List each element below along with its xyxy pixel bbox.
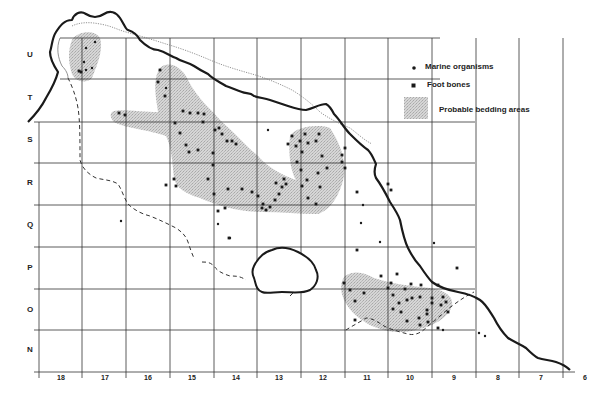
foot-bone-point: [295, 145, 298, 148]
foot-bone-point: [261, 207, 264, 210]
foot-bone-point: [265, 209, 268, 212]
lake-outline: [253, 248, 318, 293]
row-label-s: S: [25, 135, 35, 144]
bedding-area-o10: [341, 272, 452, 332]
foot-bone-point: [356, 191, 359, 194]
foot-bone-point: [426, 309, 429, 312]
marine-organism-point: [484, 335, 486, 337]
foot-bone-point: [203, 113, 206, 116]
column-label-7: 7: [531, 374, 551, 381]
map-canvas: [0, 0, 613, 400]
marine-organism-point: [478, 332, 480, 334]
foot-bone-point: [197, 112, 200, 115]
foot-bone-point: [396, 273, 399, 276]
foot-bone-point: [317, 172, 320, 175]
foot-bone-point: [287, 143, 290, 146]
foot-bone-point: [406, 320, 409, 323]
marine-organism-point: [360, 222, 362, 224]
foot-bone-point: [164, 95, 167, 98]
foot-bone-point: [440, 304, 443, 307]
foot-bone-point: [344, 147, 347, 150]
foot-bone-point: [241, 188, 244, 191]
foot-bone-point: [410, 283, 413, 286]
foot-bone-point: [349, 289, 352, 292]
marine-organism-point: [267, 129, 269, 131]
foot-bone-point: [226, 140, 229, 143]
foot-bone-point: [304, 133, 307, 136]
row-label-r: R: [25, 178, 35, 187]
foot-bone-point: [174, 122, 177, 125]
foot-bone-point: [418, 317, 421, 320]
foot-bone-point: [398, 302, 401, 305]
foot-bone-point: [118, 112, 121, 115]
foot-bone-point: [274, 199, 277, 202]
foot-bone-point: [354, 300, 357, 303]
foot-bone-point: [363, 292, 366, 295]
foot-bone-point: [445, 301, 448, 304]
marine-organism-point: [91, 67, 93, 69]
foot-bone-point: [278, 193, 281, 196]
foot-bone-point: [231, 140, 234, 143]
marine-organism-point: [362, 204, 364, 206]
column-label-18: 18: [51, 374, 71, 381]
foot-bone-point: [456, 267, 459, 270]
foot-bone-point: [197, 149, 200, 152]
foot-bone-point: [437, 327, 440, 330]
row-label-q: Q: [25, 220, 35, 229]
foot-bone-square-icon: [410, 82, 418, 90]
foot-bone-point: [235, 143, 238, 146]
foot-bone-point: [306, 179, 309, 182]
marine-organism-point: [217, 223, 219, 225]
bedding-area-swatch-icon: [404, 97, 428, 119]
foot-bone-point: [301, 185, 304, 188]
foot-bone-point: [387, 287, 390, 290]
foot-bone-point: [165, 184, 168, 187]
foot-bone-point: [344, 167, 347, 170]
column-label-13: 13: [269, 374, 289, 381]
foot-bone-point: [224, 207, 227, 210]
foot-bone-point: [218, 127, 221, 130]
row-label-p: P: [25, 263, 35, 272]
foot-bone-point: [390, 282, 393, 285]
foot-bone-point: [307, 197, 310, 200]
marine-organism-point: [94, 41, 96, 43]
foot-bone-point: [212, 152, 215, 155]
foot-bone-point: [179, 132, 182, 135]
foot-bone-point: [296, 161, 299, 164]
foot-bone-point: [221, 133, 224, 136]
foot-bone-point: [307, 142, 310, 145]
foot-bone-point: [251, 191, 254, 194]
legend-label-bedding-areas: Probable bedding areas: [439, 105, 530, 114]
foot-bone-point: [281, 186, 284, 189]
foot-bone-point: [419, 296, 422, 299]
foot-bone-point: [124, 114, 127, 117]
marine-organism-point: [85, 69, 87, 71]
foot-bone-point: [214, 129, 217, 132]
foot-bone-point: [227, 188, 230, 191]
marine-organism-point: [379, 241, 381, 243]
foot-bone-point: [420, 284, 423, 287]
foot-bone-point: [419, 324, 422, 327]
inner-boundary-line: [58, 38, 68, 78]
foot-bone-point: [341, 161, 344, 164]
foot-bone-point: [406, 299, 409, 302]
foot-bone-point: [387, 183, 390, 186]
marine-organism-dot-icon: [410, 64, 418, 72]
foot-bone-point: [343, 282, 346, 285]
foot-bone-point: [189, 112, 192, 115]
foot-bone-point: [157, 81, 160, 84]
foot-bone-point: [404, 288, 407, 291]
foot-bone-point: [354, 319, 357, 322]
row-label-n: N: [25, 345, 35, 354]
foot-bone-point: [318, 133, 321, 136]
foot-bone-point: [392, 308, 395, 311]
legend-label-marine-organisms: Marine organisms: [425, 62, 493, 71]
foot-bone-point: [380, 275, 383, 278]
column-label-9: 9: [444, 374, 464, 381]
column-label-15: 15: [182, 374, 202, 381]
foot-bone-point: [426, 313, 429, 316]
foot-bone-point: [301, 151, 304, 154]
foot-bone-point: [257, 195, 260, 198]
marine-organism-point: [433, 242, 435, 244]
marine-organism-point: [442, 329, 444, 331]
